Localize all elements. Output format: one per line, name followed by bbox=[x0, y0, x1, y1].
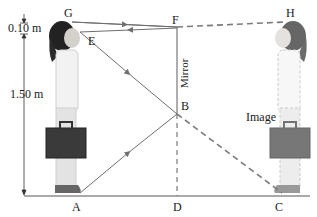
dimension-arrows bbox=[20, 14, 28, 195]
image-label: Image bbox=[246, 110, 276, 124]
point-A: A bbox=[72, 200, 81, 214]
dim-top-label: 0.10 m bbox=[8, 21, 42, 35]
image-figure bbox=[270, 21, 310, 193]
point-G: G bbox=[64, 6, 73, 20]
point-D: D bbox=[173, 200, 182, 214]
woman-figure bbox=[46, 21, 86, 193]
point-E: E bbox=[88, 34, 95, 48]
point-H: H bbox=[286, 6, 295, 20]
mirror-diagram: 0.10 m 1.50 m Mirror G bbox=[0, 0, 317, 217]
dim-height-label: 1.50 m bbox=[10, 87, 44, 101]
point-F: F bbox=[172, 13, 179, 27]
point-B: B bbox=[181, 99, 189, 113]
virtual-rays bbox=[177, 22, 285, 193]
point-C: C bbox=[275, 200, 283, 214]
mirror-label: Mirror bbox=[178, 58, 190, 88]
